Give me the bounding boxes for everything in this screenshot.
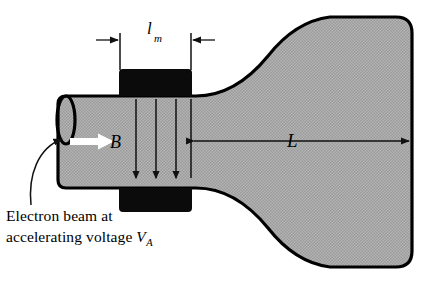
drift-length-label: L [286, 130, 298, 151]
top-pole-piece [119, 69, 192, 96]
magnetic-field-label: B [110, 132, 121, 152]
magnet-length-label: l [147, 19, 152, 38]
crt-deflection-figure: l m B L Electron beam at accelerating vo… [0, 0, 430, 284]
caption-line-2: accelerating voltage VA [6, 227, 236, 250]
accelerating-voltage-symbol: V [136, 228, 146, 245]
magnet-length-subscript: m [154, 32, 162, 44]
caption-line-2-prefix: accelerating voltage [6, 228, 136, 245]
caption-line-1: Electron beam at [6, 206, 236, 227]
accelerating-voltage-subscript: A [146, 237, 153, 248]
figure-caption: Electron beam at accelerating voltage VA [6, 206, 236, 250]
